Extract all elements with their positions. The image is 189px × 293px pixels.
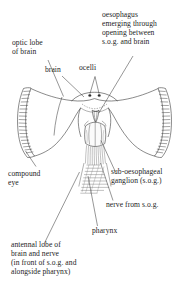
compound-eye-left-facets: [19, 91, 34, 153]
leader-ocelli-right: [95, 77, 99, 94]
leader-lines: [26, 56, 134, 244]
anatomical-figure: optic lobe of brain oesophagus emerging …: [0, 0, 189, 293]
label-sub-oesophageal-ganglion: sub-oesophageal ganglion (s.o.g.): [111, 168, 162, 186]
nerve-from-sog: [85, 145, 105, 165]
label-optic-lobe-of-brain: optic lobe of brain: [12, 39, 43, 57]
label-brain: brain: [45, 66, 61, 75]
label-nerve-from-sog: nerve from s.o.g.: [106, 201, 159, 210]
leader-antennal-lobe: [44, 172, 80, 244]
compound-eye-right: [155, 88, 172, 158]
compound-eye-right-facets: [156, 91, 171, 153]
leader-ocelli-left: [90, 77, 95, 94]
leader-oesophagus: [99, 56, 133, 113]
leader-compound-eye: [26, 151, 37, 167]
label-ocelli: ocelli: [79, 64, 96, 73]
oesophagus: [92, 110, 99, 122]
pharynx: [79, 163, 111, 193]
compound-eye-left: [18, 88, 35, 158]
leader-optic-lobe-2: [54, 97, 62, 136]
ocelli: [88, 94, 101, 96]
leader-brain: [62, 76, 84, 97]
label-oesophagus: oesophagus emerging through opening betw…: [102, 11, 157, 47]
label-pharynx: pharynx: [92, 227, 117, 236]
label-antennal-lobe: antennal lobe of brain and nerve (in fro…: [11, 241, 76, 277]
leader-pharynx: [88, 176, 98, 226]
brain: [72, 92, 118, 112]
sub-oesophageal-ganglion: [85, 122, 106, 146]
label-compound-eye: compound eye: [8, 170, 40, 188]
